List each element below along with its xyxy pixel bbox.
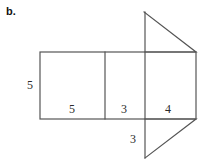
top-triangle <box>144 12 196 52</box>
dimension-label-base-third: 4 <box>165 103 171 115</box>
dimension-label-base-first: 5 <box>69 103 75 115</box>
part-letter-label: b. <box>6 6 16 17</box>
bottom-triangle <box>145 119 196 158</box>
rectangle-body <box>40 52 196 119</box>
dimension-label-base-second: 3 <box>121 103 127 115</box>
dimension-label-fold-bottom: 3 <box>130 133 136 145</box>
diagram-strokes <box>40 12 196 158</box>
geometry-figure: b. 5 5 3 4 3 <box>0 0 211 161</box>
dimension-label-height-left: 5 <box>27 79 33 91</box>
